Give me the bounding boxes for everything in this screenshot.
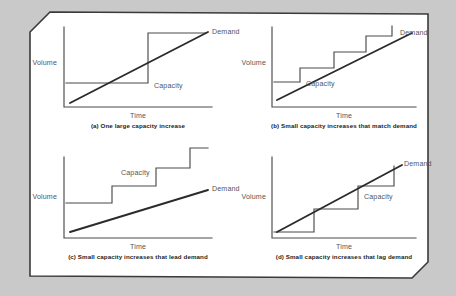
panel-b-demand-label: Demand [400,29,428,37]
panel-d-xlabel: Time [336,243,352,251]
panel-d-demand-label: Demand [404,160,432,168]
panel-a-capacity-label: Capacity [154,82,183,90]
panel-b-xlabel: Time [336,112,352,120]
panel-a-ylabel: Volume [32,59,57,67]
panel-a-demand-label: Demand [212,28,240,36]
panel-c-ylabel: Volume [32,193,57,201]
panel-a-caption: (a) One large capacity increase [91,122,186,129]
panel-c-capacity-label: Capacity [121,169,150,177]
panel-a-xlabel: Time [130,112,146,120]
panel-c-demand-label: Demand [212,185,240,193]
panel-d-capacity-label: Capacity [364,193,393,201]
panel-b-caption: (b) Small capacity increases that match … [271,122,417,129]
capacity-strategy-figure: Volume Time Demand Capacity (a) One larg… [0,0,456,296]
panel-c-caption: (c) Small capacity increases that lead d… [68,253,208,260]
figure-sheet: Volume Time Demand Capacity (a) One larg… [0,0,456,296]
panel-c-xlabel: Time [130,243,146,251]
panel-b-capacity-label: Capacity [306,80,335,88]
panel-b-ylabel: Volume [241,59,266,67]
panel-d-ylabel: Volume [241,193,266,201]
panel-d-caption: (d) Small capacity increases that lag de… [276,253,413,260]
